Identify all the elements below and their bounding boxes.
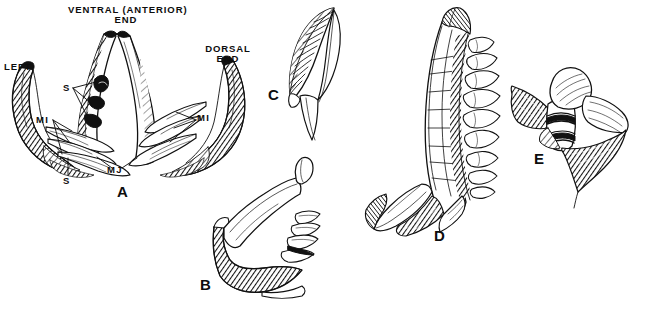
label-mi-left: MI — [36, 115, 49, 125]
panel-b-figure — [213, 157, 320, 298]
panel-label-c: C — [268, 87, 279, 103]
label-mj: MJ — [107, 165, 123, 175]
panel-label-d: D — [434, 228, 445, 244]
panel-label-e: E — [534, 151, 544, 167]
label-s-lower: S — [63, 176, 71, 186]
panel-label-a: A — [117, 184, 128, 200]
label-ventral-anterior-end: VENTRAL (ANTERIOR) END — [68, 5, 184, 26]
panel-e-figure — [511, 68, 628, 208]
label-s-upper: S — [63, 83, 71, 93]
label-dorsal-end: DORSAL END — [198, 44, 258, 65]
figure-plate: VENTRAL (ANTERIOR) END DORSAL END LEFT S… — [0, 0, 646, 311]
label-left: LEFT — [4, 62, 48, 72]
label-mi-right: MI — [197, 113, 210, 123]
panel-label-b: B — [200, 277, 211, 293]
panel-c-figure — [289, 8, 341, 140]
plate-artwork — [0, 0, 646, 311]
panel-d-figure — [365, 8, 500, 236]
